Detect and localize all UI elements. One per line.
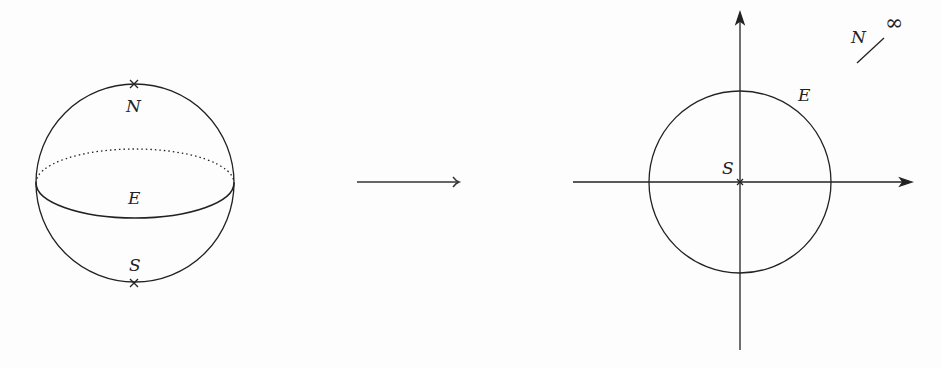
sphere-equator-label: E	[127, 188, 141, 208]
plane-north-label: N	[850, 27, 867, 47]
map-arrow-icon	[357, 177, 459, 187]
plane	[573, 12, 912, 350]
south-pole-mark-icon	[130, 279, 138, 287]
infinity-symbol: ∞	[885, 10, 903, 35]
diagram-canvas: N E S S E N ∞	[0, 0, 942, 368]
plane-origin-label: S	[722, 158, 734, 178]
sphere-north-label: N	[125, 96, 142, 116]
sphere-south-label: S	[129, 255, 141, 275]
plane-circle-label: E	[797, 85, 811, 105]
equator-back-dotted	[36, 149, 234, 183]
